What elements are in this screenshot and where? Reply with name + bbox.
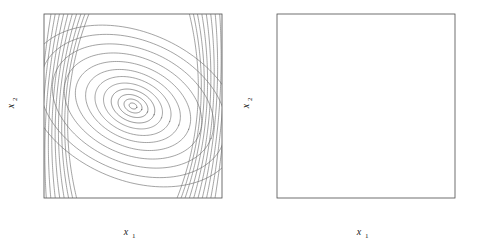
xlabel-text-left: x [123, 226, 129, 237]
figure-phase-portraits: x 1 x 2 x 1 x [0, 0, 478, 245]
xlabel-text-right: x [356, 226, 362, 237]
ylabel-text-right: x [240, 103, 251, 109]
xlabel-subscript-right: 1 [365, 232, 369, 240]
plot-area-left [27, 0, 239, 237]
xlabel-subscript-left: 1 [132, 232, 136, 240]
plot-area-right [277, 14, 455, 198]
ylabel-text-left: x [5, 103, 16, 109]
axis-label-x-right: x 1 [356, 226, 369, 240]
axis-label-y-right: x 2 [240, 97, 254, 109]
ylabel-subscript-right: 2 [246, 97, 254, 101]
axes-frame-left [44, 14, 222, 198]
axis-label-x-left: x 1 [123, 226, 136, 240]
chart-panel-right: x 1 x 2 [239, 0, 478, 245]
axis-label-y-left: x 2 [5, 97, 19, 109]
ylabel-subscript-left: 2 [11, 97, 19, 101]
axes-frame-right [277, 14, 455, 198]
chart-svg-left: x 1 x 2 [0, 0, 239, 245]
chart-svg-right: x 1 x 2 [239, 0, 478, 245]
chart-panel-left: x 1 x 2 [0, 0, 239, 245]
